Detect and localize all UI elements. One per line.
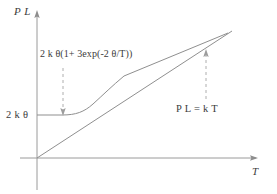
physics-plot-figure: P L T 2 k θ 2 k θ(1+ 3exp(-2 θ/T)) P L =… — [0, 0, 277, 194]
asymptote-label: P L = k T — [176, 104, 218, 115]
curve-formula-label: 2 k θ(1+ 3exp(-2 θ/T)) — [40, 49, 132, 59]
plot-canvas — [0, 0, 277, 194]
y-intercept-label: 2 k θ — [6, 110, 28, 121]
asymptote-callout-arrow — [203, 49, 208, 99]
x-axis — [20, 155, 258, 161]
x-axis-label: T — [252, 166, 259, 177]
y-axis-label: P L — [14, 6, 31, 17]
formula-callout-arrow — [60, 68, 65, 116]
y-axis — [34, 10, 39, 190]
